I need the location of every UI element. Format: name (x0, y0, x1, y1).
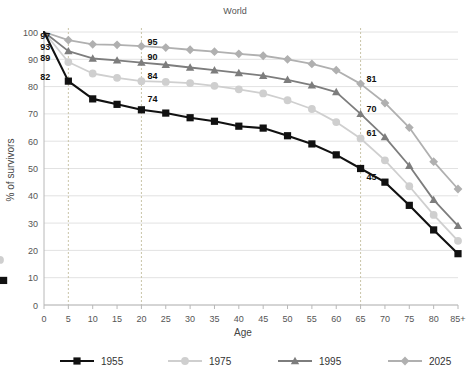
data-point-1975-age65 (357, 135, 365, 143)
data-label-2025-95: 95 (147, 37, 157, 47)
data-point-2025-age5 (64, 36, 73, 45)
data-point-1955-age35 (211, 118, 218, 125)
data-point-2025-age20 (137, 42, 146, 51)
data-point-1955-age20 (138, 106, 145, 113)
data-point-1955-ageundefined (0, 277, 7, 284)
data-point-labels: 979389829590847481706145 (40, 31, 376, 182)
y-tick-label-0: 0 (33, 301, 38, 311)
legend-label-1995: 1995 (319, 356, 342, 367)
data-point-1955-age15 (113, 101, 120, 108)
legend-label-1975: 1975 (209, 356, 232, 367)
legend-label-1955: 1955 (101, 356, 124, 367)
data-point-2025-age10 (88, 40, 97, 49)
x-tick-label-40: 40 (234, 314, 244, 324)
data-point-1975-ageundefined (0, 256, 4, 264)
data-point-2025-age25 (161, 43, 170, 52)
legend-marker-diamond-icon (401, 357, 410, 366)
y-axis-tick-labels: 0102030405060708090100 (23, 28, 38, 311)
x-tick-label-20: 20 (136, 314, 146, 324)
y-tick-label-80: 80 (28, 82, 38, 92)
data-series-layer (0, 32, 462, 284)
data-point-1975-age80 (430, 211, 438, 219)
data-point-1975-age30 (186, 79, 194, 87)
data-label-1975-84: 84 (147, 71, 157, 81)
data-point-1975-age60 (332, 118, 340, 126)
x-tick-label-70: 70 (380, 314, 390, 324)
y-tick-label-90: 90 (28, 55, 38, 65)
data-point-1955-age85+ (454, 250, 461, 257)
data-point-1955-age60 (333, 151, 340, 158)
legend-marker-circle-icon (181, 357, 189, 365)
data-point-1975-age75 (405, 182, 413, 190)
legend-item-1975[interactable]: 1975 (168, 356, 232, 367)
x-tick-label-85+: 85+ (450, 314, 465, 324)
data-point-1975-age50 (284, 96, 292, 104)
series-line-2025 (44, 32, 458, 189)
series-line-1995 (44, 32, 458, 226)
series-1955 (0, 32, 462, 284)
data-label-1995-70: 70 (367, 104, 377, 114)
data-point-1975-age20 (138, 77, 146, 85)
x-tick-label-55: 55 (307, 314, 317, 324)
data-point-2025-age15 (113, 40, 122, 49)
x-tick-label-35: 35 (209, 314, 219, 324)
legend-label-2025: 2025 (429, 356, 452, 367)
legend-item-1995[interactable]: 1995 (278, 356, 342, 367)
legend-item-1955[interactable]: 1955 (60, 356, 124, 367)
data-point-2025-age55 (307, 60, 316, 69)
data-label-2025-81: 81 (367, 74, 377, 84)
data-point-2025-age35 (210, 47, 219, 56)
data-point-1955-age65 (357, 165, 364, 172)
y-tick-label-40: 40 (28, 191, 38, 201)
data-point-2025-age40 (234, 49, 243, 58)
data-point-1955-age80 (430, 226, 437, 233)
x-tick-label-60: 60 (331, 314, 341, 324)
x-tick-label-15: 15 (112, 314, 122, 324)
data-point-1955-age5 (65, 78, 72, 85)
y-tick-label-10: 10 (28, 273, 38, 283)
data-point-2025-age30 (186, 45, 195, 54)
x-tick-label-0: 0 (41, 314, 46, 324)
series-2025 (44, 32, 462, 193)
data-label-1995-90: 90 (147, 52, 157, 62)
legend-item-2025[interactable]: 2025 (388, 356, 452, 367)
data-label-1975-89: 89 (40, 53, 50, 63)
x-tick-label-30: 30 (185, 314, 195, 324)
data-point-1975-age45 (259, 90, 267, 98)
x-tick-label-65: 65 (356, 314, 366, 324)
chart-legend: 1955197519952025 (60, 356, 452, 367)
data-label-1955-82: 82 (40, 72, 50, 82)
data-point-1955-age40 (235, 123, 242, 130)
x-axis-title: Age (234, 327, 252, 338)
legend-marker-square-icon (73, 357, 80, 364)
data-point-1955-age55 (308, 140, 315, 147)
data-point-1975-age70 (381, 156, 389, 164)
y-tick-label-100: 100 (23, 28, 38, 38)
data-label-1955-74: 74 (147, 94, 157, 104)
gridlines (44, 32, 458, 305)
data-point-2025-age60 (332, 66, 341, 75)
series-line-1975 (44, 32, 458, 241)
chart-container: World 0102030405060708090100 05101520253… (0, 0, 470, 377)
data-point-1955-age25 (162, 109, 169, 116)
x-tick-label-80: 80 (429, 314, 439, 324)
data-point-1955-age75 (406, 202, 413, 209)
data-label-1955-45: 45 (367, 172, 377, 182)
data-point-1955-age50 (284, 132, 291, 139)
data-point-1975-age5 (64, 58, 72, 66)
y-axis-title: % of survivors (5, 139, 16, 202)
data-point-1955-age30 (187, 114, 194, 121)
data-point-1975-age85+ (454, 237, 462, 245)
series-1975 (0, 32, 462, 264)
data-point-1975-age25 (162, 78, 170, 86)
y-tick-label-60: 60 (28, 137, 38, 147)
chart-title: World (223, 6, 246, 16)
data-point-1975-age15 (113, 74, 121, 82)
data-label-2025-97: 97 (40, 31, 50, 41)
data-point-1975-age40 (235, 85, 243, 93)
y-tick-label-20: 20 (28, 246, 38, 256)
x-axis-tick-labels: 0510152025303540455055606570758085+ (41, 305, 465, 324)
data-point-1975-age10 (89, 70, 97, 78)
data-label-1975-61: 61 (367, 128, 377, 138)
x-tick-label-5: 5 (66, 314, 71, 324)
